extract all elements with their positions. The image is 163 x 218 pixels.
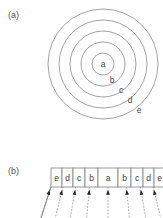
panel-a-label: (a) [8, 10, 19, 20]
panel-b-label: (b) [8, 166, 19, 176]
arrowhead-6 [140, 190, 144, 195]
ring-label-3: d [128, 95, 133, 105]
detector-cell-label-4: a [106, 173, 111, 183]
detector-cell-label-0: e [54, 173, 59, 183]
cells-group: edcbabcde [51, 168, 163, 187]
detector-cell-label-5: b [122, 173, 127, 183]
detector-cell-label-1: d [65, 173, 70, 183]
panel-b-detector-array: edcbabcde [40, 160, 163, 218]
arrowhead-4 [106, 190, 110, 195]
panel-a-concentric-rings: abcde [40, 4, 163, 132]
figure-root: (a) (b) abcde edcbabcde [0, 0, 163, 218]
arrowhead-2 [72, 190, 76, 195]
ring-label-0: a [101, 59, 106, 69]
detector-cell-label-3: b [89, 173, 94, 183]
ring-label-1: b [110, 75, 115, 85]
detector-cell-label-7: d [146, 173, 151, 183]
arrowhead-0 [46, 190, 50, 195]
detector-cell-label-8: e [157, 173, 162, 183]
arrowhead-5 [125, 190, 129, 195]
arrowhead-3 [87, 190, 91, 195]
arrowheads-group [46, 190, 163, 195]
ring-label-4: e [137, 105, 142, 115]
